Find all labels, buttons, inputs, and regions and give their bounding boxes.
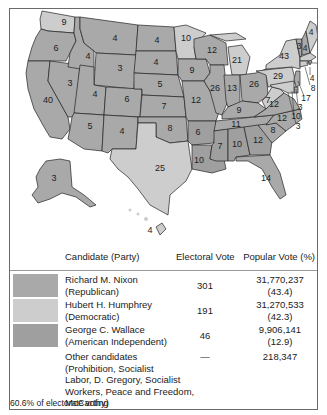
svg-text:29: 29 [273, 71, 283, 81]
turnout-note: 60.6% of electorate voting [10, 398, 108, 408]
svg-text:9: 9 [61, 17, 66, 27]
svg-text:4: 4 [112, 33, 117, 43]
svg-text:4: 4 [303, 43, 308, 53]
svg-text:10: 10 [181, 33, 191, 43]
svg-text:10: 10 [291, 111, 301, 121]
candidate-name: George C. Wallace [65, 324, 167, 336]
svg-text:4: 4 [309, 27, 314, 37]
electoral-vote: 301 [190, 280, 220, 292]
svg-text:12: 12 [191, 95, 201, 105]
svg-text:26: 26 [249, 79, 259, 89]
svg-text:12: 12 [277, 113, 287, 123]
svg-text:12: 12 [253, 135, 263, 145]
state-or [28, 29, 76, 61]
header-electoral-vote: Electoral Vote [176, 251, 235, 262]
table-header: Candidate (Party) Electoral Vote Popular… [10, 246, 317, 271]
svg-text:7: 7 [161, 101, 166, 111]
table-row: Richard M. Nixon (Republican) 301 31,770… [10, 274, 317, 298]
popular-percent: (43.4) [245, 286, 315, 298]
svg-text:4: 4 [153, 57, 158, 67]
legend-swatch-republican [13, 274, 58, 297]
popular-vote: 9,906,141 [245, 324, 315, 336]
svg-text:10: 10 [232, 139, 242, 149]
svg-text:3: 3 [51, 173, 56, 183]
svg-text:43: 43 [279, 51, 289, 61]
election-map-figure: 9 6 40 3 4 4 3 4 5 6 4 4 4 5 7 8 25 10 9… [9, 8, 318, 410]
candidate-name: Hubert H. Humphrey [65, 299, 152, 311]
state-nj [294, 71, 300, 87]
svg-text:4: 4 [85, 51, 90, 61]
state-wa [40, 11, 75, 33]
legend-swatch-american-independent [13, 324, 58, 347]
svg-text:4: 4 [92, 89, 97, 99]
popular-percent: (12.9) [245, 336, 315, 348]
svg-text:17: 17 [301, 93, 311, 103]
other-candidates-detail: (Prohibition, Socialist [65, 363, 194, 375]
state-ar [188, 121, 216, 145]
svg-text:25: 25 [155, 163, 165, 173]
state-hi [156, 223, 166, 235]
candidate-party: (Republican) [65, 286, 138, 298]
svg-text:14: 14 [261, 173, 271, 183]
popular-vote: 31,770,237 [245, 274, 315, 286]
state-wy [94, 53, 136, 89]
svg-text:3: 3 [117, 63, 122, 73]
svg-text:21: 21 [232, 55, 242, 65]
svg-text:8: 8 [311, 83, 316, 93]
header-candidate: Candidate (Party) [65, 251, 139, 262]
state-co [104, 87, 142, 117]
svg-text:6: 6 [53, 43, 58, 53]
svg-text:5: 5 [157, 79, 162, 89]
legend-swatch-democratic [13, 299, 58, 322]
svg-text:26: 26 [210, 83, 220, 93]
other-candidates-detail: Labor, D. Gregory, Socialist [65, 374, 194, 386]
results-table: Candidate (Party) Electoral Vote Popular… [10, 246, 317, 409]
svg-text:3: 3 [67, 78, 72, 88]
svg-text:6: 6 [124, 94, 129, 104]
svg-text:7: 7 [217, 141, 222, 151]
electoral-vote: 46 [190, 330, 220, 342]
svg-text:4: 4 [310, 73, 315, 83]
svg-text:8: 8 [167, 123, 172, 133]
svg-text:8: 8 [270, 125, 275, 135]
table-row: George C. Wallace (American Independent)… [10, 324, 317, 348]
popular-percent: (42.3) [245, 311, 315, 323]
popular-vote: 31,270,533 [245, 299, 315, 311]
svg-text:4: 4 [154, 35, 159, 45]
svg-text:11: 11 [231, 119, 240, 129]
candidate-party: (American Independent) [65, 336, 167, 348]
svg-text:3: 3 [297, 41, 302, 51]
table-row: Hubert H. Humphrey (Democratic) 191 31,2… [10, 299, 317, 323]
us-electoral-map: 9 6 40 3 4 4 3 4 5 6 4 4 4 5 7 8 25 10 9… [10, 9, 317, 246]
svg-text:5: 5 [87, 121, 92, 131]
svg-text:10: 10 [194, 155, 204, 165]
candidate-name: Richard M. Nixon [65, 274, 138, 286]
header-popular-vote: Popular Vote (%) [243, 251, 315, 262]
svg-text:3: 3 [296, 121, 301, 131]
state-ak [32, 159, 96, 207]
svg-text:40: 40 [43, 95, 53, 105]
candidate-party: (Democratic) [65, 311, 152, 323]
svg-text:6: 6 [195, 127, 200, 137]
svg-text:12: 12 [207, 45, 217, 55]
electoral-vote: 191 [190, 305, 220, 317]
popular-vote: 218,347 [245, 351, 315, 363]
svg-text:9: 9 [189, 65, 194, 75]
svg-text:7: 7 [265, 95, 270, 105]
other-candidates-detail: Workers, Peace and Freedom, [65, 386, 194, 398]
state-ct [300, 61, 308, 67]
other-candidates-label: Other candidates [65, 351, 194, 363]
electoral-vote: — [190, 351, 220, 363]
svg-text:9: 9 [236, 105, 241, 115]
svg-text:4: 4 [119, 126, 124, 136]
state-az [68, 113, 104, 151]
svg-text:13: 13 [227, 83, 237, 93]
svg-text:4: 4 [147, 225, 152, 235]
